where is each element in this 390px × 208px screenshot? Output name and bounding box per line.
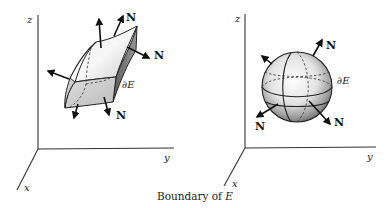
- right-z-label: z: [234, 13, 241, 24]
- normal-label-right: N: [154, 49, 164, 62]
- normal-label-bottom-right: N: [334, 116, 344, 129]
- normal-label-bottom: N: [116, 109, 126, 122]
- caption-variable: E: [225, 190, 233, 202]
- right-y-axis: [245, 147, 376, 148]
- sphere-surface: [262, 52, 332, 122]
- normal-arrow-top-left: [262, 56, 272, 64]
- left-figure: z y x N N N ∂E: [17, 11, 174, 193]
- normal-arrow-left: [48, 71, 69, 79]
- caption-prefix: Boundary of: [157, 190, 225, 202]
- left-y-label: y: [163, 152, 170, 163]
- right-boundary-label: ∂E: [337, 75, 350, 86]
- left-z-label: z: [26, 14, 33, 25]
- figure-caption: Boundary of E: [0, 190, 390, 202]
- normal-arrow-top-right: [313, 40, 322, 56]
- right-y-label: y: [366, 151, 373, 162]
- sphere: [262, 52, 332, 122]
- normal-label-bottom-left: N: [255, 120, 265, 133]
- normal-label-top-right: N: [326, 39, 336, 52]
- right-figure: z y x N N N ∂E: [224, 13, 376, 189]
- left-boundary-label: ∂E: [122, 79, 135, 90]
- left-y-axis: [38, 148, 174, 149]
- normal-label-top: N: [126, 11, 136, 24]
- diagram-canvas: z y x N N N ∂E: [0, 0, 390, 208]
- normal-arrow-top-right: [114, 16, 123, 36]
- right-x-label: x: [232, 178, 238, 189]
